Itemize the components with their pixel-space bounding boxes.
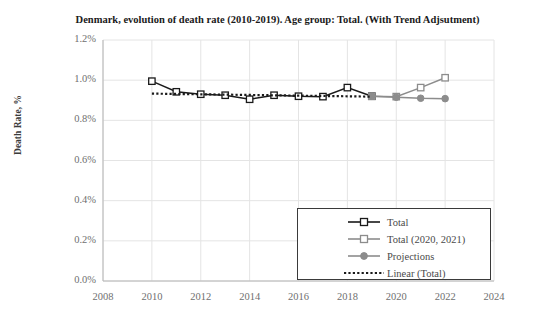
data-point-marker <box>246 96 252 102</box>
legend-marker <box>361 253 368 260</box>
series-line <box>152 94 372 97</box>
data-point-marker <box>417 84 423 90</box>
series-line <box>372 96 445 98</box>
legend-swatch <box>342 215 386 229</box>
data-point-marker <box>417 95 424 102</box>
legend-label: Total (2020, 2021) <box>387 234 465 245</box>
legend-item[interactable]: Total <box>298 213 492 231</box>
legend-item[interactable]: Total (2020, 2021) <box>298 230 492 248</box>
chart-legend: TotalTotal (2020, 2021)ProjectionsLinear… <box>297 208 491 280</box>
series-projections <box>369 93 449 102</box>
legend-swatch <box>342 266 386 280</box>
data-point-marker <box>442 95 449 102</box>
data-point-marker <box>393 94 400 101</box>
legend-item[interactable]: Linear (Total) <box>298 264 492 282</box>
legend-swatch <box>342 232 386 246</box>
legend-marker <box>361 219 368 226</box>
series-total <box>149 78 375 102</box>
legend-swatch <box>342 249 386 263</box>
legend-item[interactable]: Projections <box>298 247 492 265</box>
legend-label: Linear (Total) <box>387 268 445 279</box>
data-point-marker <box>149 78 155 84</box>
data-point-marker <box>442 75 448 81</box>
series-linear-total <box>152 94 372 97</box>
legend-label: Projections <box>387 251 434 262</box>
legend-label: Total <box>387 217 408 228</box>
data-point-marker <box>344 84 350 90</box>
chart-container: Denmark, evolution of death rate (2010-2… <box>0 0 555 320</box>
legend-marker <box>361 236 368 243</box>
